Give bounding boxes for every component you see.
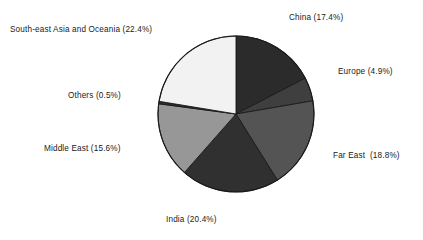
pie-chart: China (17.4%) Europe (4.9%) Far East (18… <box>0 0 423 240</box>
pie-label-india: India (20.4%) <box>166 214 217 225</box>
pie-slice-group <box>158 36 314 192</box>
pie-label-south-east-asia-and-oceania: South-east Asia and Oceania (22.4%) <box>10 24 152 35</box>
chart-page: China (17.4%) Europe (4.9%) Far East (18… <box>0 0 423 240</box>
pie-label-others: Others (0.5%) <box>68 90 121 101</box>
pie-slice <box>159 36 236 114</box>
pie-label-china: China (17.4%) <box>289 12 343 23</box>
pie-label-europe: Europe (4.9%) <box>338 66 393 77</box>
pie-label-far-east: Far East (18.8%) <box>333 150 400 161</box>
pie-chart-svg <box>0 0 423 240</box>
pie-label-middle-east: Middle East (15.6%) <box>44 143 121 154</box>
